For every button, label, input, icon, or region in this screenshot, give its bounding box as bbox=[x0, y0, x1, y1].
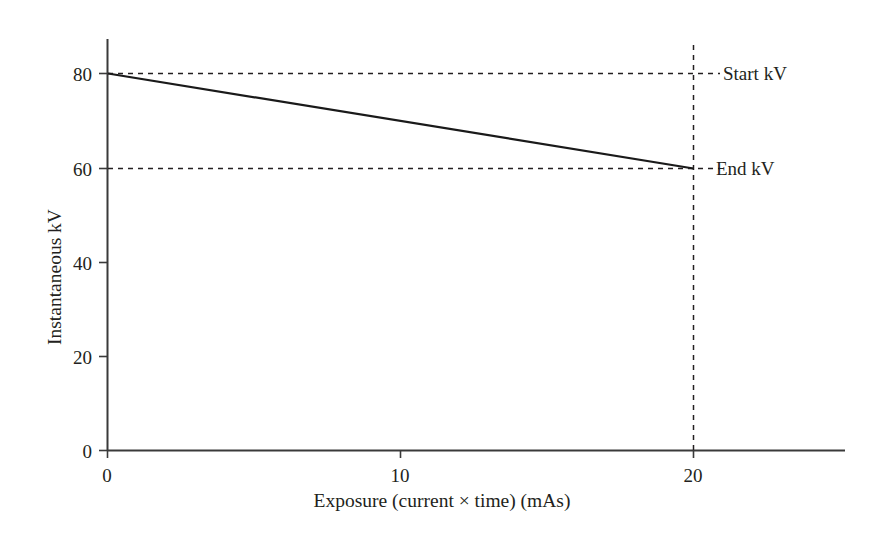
y-tick-marks bbox=[99, 74, 107, 451]
y-tick-label-60: 60 bbox=[54, 160, 92, 179]
chart-figure: 0 20 40 60 80 0 10 20 Start kV End kV In… bbox=[0, 0, 884, 537]
x-tick-label-10: 10 bbox=[380, 466, 420, 485]
x-tick-label-20: 20 bbox=[673, 466, 713, 485]
y-axis-title: Instantaneous kV bbox=[45, 209, 65, 345]
end-kv-annotation-label: End kV bbox=[716, 159, 775, 178]
y-tick-label-0: 0 bbox=[54, 442, 92, 461]
x-tick-label-0: 0 bbox=[87, 466, 127, 485]
start-kv-annotation-label: Start kV bbox=[723, 64, 787, 83]
y-tick-label-80: 80 bbox=[54, 65, 92, 84]
kv-decay-series-line bbox=[108, 74, 694, 169]
y-tick-label-20: 20 bbox=[54, 348, 92, 367]
x-axis-title: Exposure (current × time) (mAs) bbox=[0, 491, 884, 511]
